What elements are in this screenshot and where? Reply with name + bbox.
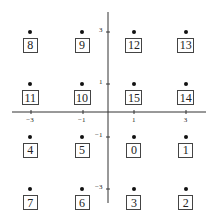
symbol-label-box: 9 <box>75 38 90 53</box>
symbol-label-box: 4 <box>23 143 38 158</box>
symbol-label-box: 1 <box>178 143 193 158</box>
symbol-label-box: 14 <box>177 90 194 105</box>
constellation-dot <box>132 135 136 139</box>
x-tick-label: −1 <box>78 117 85 124</box>
x-tick-label: 3 <box>184 117 188 124</box>
symbol-label-box: 11 <box>22 90 39 105</box>
symbol-label-box: 2 <box>178 195 193 210</box>
y-tick-label: −3 <box>95 184 102 191</box>
symbol-label-box: 12 <box>125 38 142 53</box>
constellation-dot <box>80 135 84 139</box>
symbol-label-box: 15 <box>125 90 142 105</box>
axes <box>0 0 214 220</box>
symbol-label-box: 3 <box>126 195 141 210</box>
constellation-dot <box>184 30 188 34</box>
symbol-label-box: 7 <box>23 195 38 210</box>
y-tick-label: −1 <box>95 132 102 139</box>
symbol-label-box: 6 <box>75 195 90 210</box>
symbol-label-box: 10 <box>74 90 91 105</box>
y-tick-label: 1 <box>99 79 103 86</box>
x-tick-label: −3 <box>26 117 33 124</box>
x-tick-label: 1 <box>132 117 136 124</box>
symbol-label-box: 8 <box>23 38 38 53</box>
constellation-dot <box>184 135 188 139</box>
constellation-dot <box>132 30 136 34</box>
constellation-dot <box>80 30 84 34</box>
symbol-label-box: 0 <box>126 143 141 158</box>
constellation-dot <box>132 187 136 191</box>
y-tick-label: 3 <box>99 27 103 34</box>
symbol-label-box: 13 <box>177 38 194 53</box>
constellation-dot <box>184 187 188 191</box>
symbol-label-box: 5 <box>75 143 90 158</box>
